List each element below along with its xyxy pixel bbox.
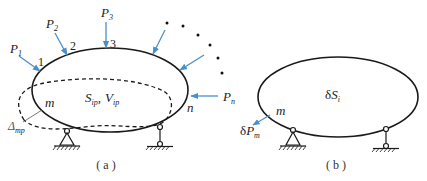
panel-a: P1 P2 P3 Pn 1 2 3 n m Sip,Vip Δmp xyxy=(7,5,235,172)
load-arrow-4 xyxy=(153,30,165,54)
load-arrow-p2 xyxy=(55,33,67,55)
point-label-m-b: m xyxy=(276,103,285,118)
load-arrow-5 xyxy=(180,55,204,70)
load-label-pn: Pn xyxy=(222,89,235,106)
virtual-load-label: δPm xyxy=(240,123,260,140)
panel-b: δSi m δPm xyxy=(240,57,418,172)
point-label-1: 1 xyxy=(38,55,44,69)
point-label-n: n xyxy=(187,100,194,115)
center-label-s-v: Sip,Vip xyxy=(85,90,119,107)
diagram-canvas: P1 P2 P3 Pn 1 2 3 n m Sip,Vip Δmp xyxy=(0,0,427,181)
point-label-m: m xyxy=(45,95,54,110)
point-label-3: 3 xyxy=(110,37,116,51)
load-arrow-p1 xyxy=(19,56,40,71)
caption-b: ( b ) xyxy=(326,158,346,172)
virtual-load-arrow xyxy=(253,115,270,125)
roller-support-right xyxy=(146,125,173,151)
load-label-p3: P3 xyxy=(100,5,113,22)
load-label-p2: P2 xyxy=(45,16,58,33)
center-label-delta-s: δSi xyxy=(325,87,340,104)
caption-a: ( a ) xyxy=(96,158,115,172)
roller-support-right-b xyxy=(372,127,399,153)
displacement-label: Δmp xyxy=(7,119,25,135)
displacement-line xyxy=(23,110,42,122)
point-label-2: 2 xyxy=(70,39,76,53)
load-label-p1: P1 xyxy=(9,41,22,58)
pin-support-left-b xyxy=(279,128,306,151)
pin-support-left xyxy=(53,129,80,151)
